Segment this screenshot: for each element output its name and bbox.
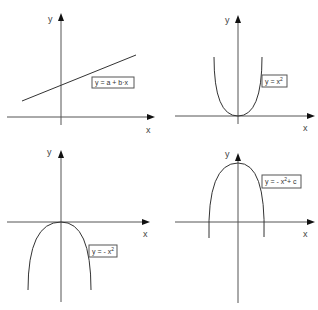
y-axis-label: y: [225, 149, 230, 159]
y-axis-arrow-icon: [235, 153, 241, 161]
y-axis-label: y: [47, 147, 52, 157]
panel-parabola-down: y x y = - x2: [7, 147, 150, 302]
x-axis-label: x: [143, 229, 148, 239]
y-axis-arrow-icon: [58, 150, 64, 158]
equation-label: y = - x2+ c: [265, 176, 297, 186]
x-axis-arrow-icon: [147, 114, 155, 120]
panel-parabola-down-shifted: y x y = - x2+ c: [175, 149, 315, 303]
parabola-downward-shifted-curve: [209, 163, 264, 238]
x-axis-label: x: [303, 123, 308, 133]
y-axis-arrow-icon: [58, 13, 64, 21]
function-graphs-figure: y x y = a + b·x y x y = x2 y x y = - x2 …: [0, 0, 318, 310]
y-axis-label: y: [225, 15, 230, 25]
equation-label: y = a + b·x: [95, 79, 129, 87]
x-axis-arrow-icon: [307, 113, 315, 119]
y-axis-label: y: [48, 14, 53, 24]
x-axis-arrow-icon: [142, 219, 150, 225]
parabola-downward-curve: [28, 222, 91, 290]
panel-parabola-up: y x y = x2: [175, 15, 315, 133]
panel-linear: y x y = a + b·x: [7, 13, 155, 135]
y-axis-arrow-icon: [235, 15, 241, 23]
x-axis-label: x: [146, 125, 151, 135]
equation-label: y = - x2: [92, 246, 114, 256]
x-axis-label: x: [303, 229, 308, 239]
x-axis-arrow-icon: [307, 219, 315, 225]
